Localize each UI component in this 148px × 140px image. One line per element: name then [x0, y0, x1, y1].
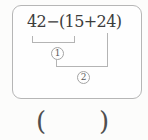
step2-bracket	[56, 33, 108, 67]
step2-label: 2	[81, 72, 87, 82]
answer-close-paren: )	[99, 104, 109, 138]
worksheet-crop: 42−(15+24) 1 2 ( )	[0, 0, 148, 140]
answer-open-paren: (	[36, 104, 46, 138]
expression-box: 42−(15+24) 1 2	[12, 5, 142, 99]
expression: 42−(15+24)	[27, 13, 121, 31]
step1-to-step2-connector	[56, 59, 57, 66]
step2-badge: 2	[77, 71, 90, 84]
answer-area: ( )	[0, 104, 148, 140]
